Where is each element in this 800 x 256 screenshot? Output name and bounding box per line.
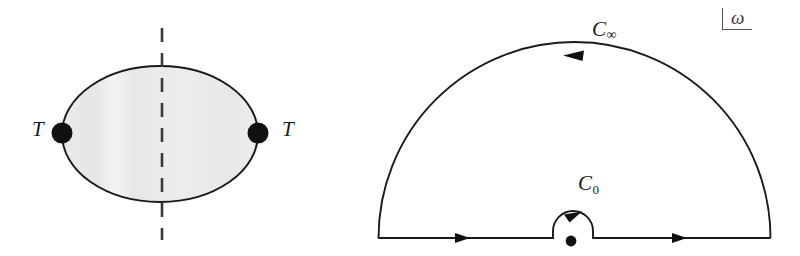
physics-figure: T T C∞ C0 ω xyxy=(0,0,800,256)
large-contour-arc xyxy=(379,42,771,238)
contour-label-c-zero-subscript: 0 xyxy=(593,182,600,197)
vertex-dot-left xyxy=(52,123,73,144)
contour-label-c-zero-base: C xyxy=(578,171,592,195)
small-arc-arrowhead xyxy=(564,212,582,223)
omega-symbol-text: ω xyxy=(731,7,744,28)
contour-label-c-zero: C0 xyxy=(578,173,599,194)
real-axis-arrowhead-left xyxy=(455,233,470,243)
pole-dot xyxy=(566,236,577,247)
bubble-blob xyxy=(62,66,258,202)
vertex-label-T-right: T xyxy=(282,119,294,140)
contour-label-c-infinity: C∞ xyxy=(592,19,616,40)
real-axis-arrowhead-right xyxy=(672,233,687,243)
figure-canvas xyxy=(0,0,800,256)
contour-label-c-infinity-subscript: ∞ xyxy=(607,27,617,42)
large-arc-arrowhead xyxy=(563,51,584,62)
vertex-label-T-left: T xyxy=(32,119,44,140)
omega-symbol: ω xyxy=(731,8,744,28)
vertex-dot-right xyxy=(248,123,269,144)
contour-label-c-infinity-base: C xyxy=(592,17,606,41)
